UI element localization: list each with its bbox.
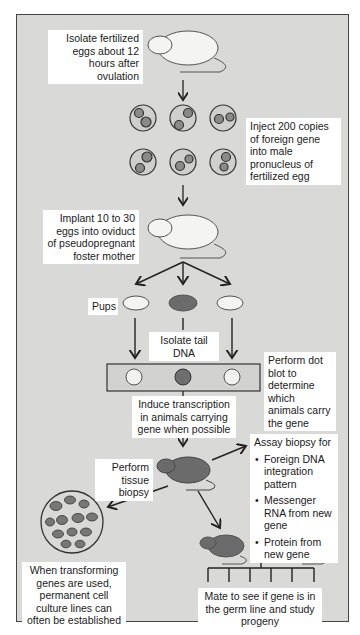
label-inject-gene: Inject 200 copies of foreign gene into m… <box>246 118 341 185</box>
label-implant-eggs: Implant 10 to 30 eggs into oviduct of ps… <box>43 210 139 264</box>
assay-item: Foreign DNA integration pattern <box>264 453 334 491</box>
label-isolate-tail-dna: Isolate tail DNA <box>149 332 219 361</box>
assay-item: Messenger RNA from new gene <box>264 494 334 532</box>
assay-item: Protein from new gene <box>264 536 334 561</box>
assay-title: Assay biopsy for <box>254 436 334 449</box>
label-pups: Pups <box>88 298 118 315</box>
cell-culture-icon <box>41 491 103 553</box>
label-isolate-eggs: Isolate fertilized eggs about 12 hours a… <box>48 30 143 84</box>
biopsy-mouse-icon <box>157 457 215 490</box>
assay-box: Assay biopsy for Foreign DNA integration… <box>250 434 338 563</box>
label-dot-blot: Perform dot blot to determine which anim… <box>264 352 336 431</box>
label-cell-culture: When transforming genes are used, perman… <box>22 562 126 629</box>
label-tissue-biopsy: Perform tissue biopsy <box>95 459 153 501</box>
assay-list: Foreign DNA integration pattern Messenge… <box>254 453 334 561</box>
label-mate-progeny: Mate to see if gene is in the germ line … <box>198 588 322 630</box>
foster-mouse-icon <box>148 215 226 258</box>
label-induce-transcription: Induce transcription in animals carrying… <box>132 396 236 438</box>
pups-icon <box>123 295 243 311</box>
mouse-icon <box>148 31 226 72</box>
eggs-icon <box>130 105 236 175</box>
